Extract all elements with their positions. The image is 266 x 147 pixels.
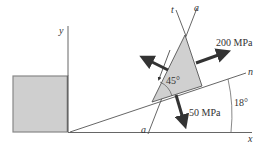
angle-18-arc	[228, 79, 232, 132]
normal-stress-label: 200 MPa	[216, 37, 253, 48]
normal-stress-arrow-right	[196, 53, 224, 63]
plane-label-bottom: a	[141, 124, 146, 135]
n-axis	[70, 73, 246, 132]
t-axis-label: t	[171, 4, 174, 15]
plane-label-top: a	[194, 2, 199, 13]
shear-stress-arrow	[176, 95, 184, 122]
square-element	[13, 76, 68, 132]
y-axis-label: y	[58, 25, 64, 36]
stress-transformation-diagram: y x n a a t 45° 200 MPa 50 MPa 18°	[0, 0, 266, 147]
x-axis-label: x	[247, 133, 253, 144]
wedge-element	[152, 35, 202, 102]
n-axis-label: n	[248, 66, 253, 77]
angle-45-label: 45°	[166, 75, 180, 86]
angle-18-label: 18°	[234, 97, 248, 108]
t-axis	[176, 10, 186, 36]
shear-stress-label: 50 MPa	[189, 107, 221, 118]
